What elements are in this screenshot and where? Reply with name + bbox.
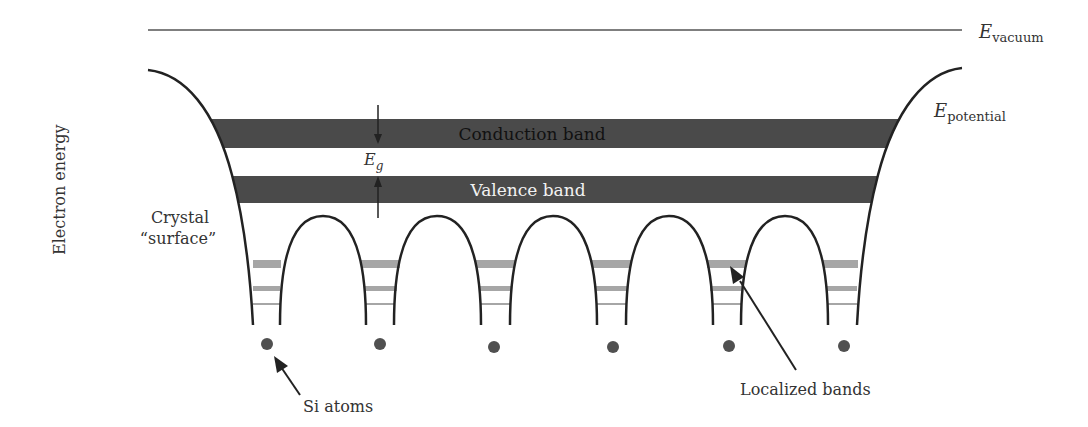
arch-2: [394, 216, 481, 325]
si-atom: [488, 341, 500, 353]
si-atoms-label: Si atoms: [303, 397, 373, 416]
arch-3: [510, 216, 597, 325]
band-diagram: Conduction band Valence band Eg Evacuum …: [0, 0, 1088, 427]
conduction-band-label: Conduction band: [458, 124, 605, 144]
si-atom: [607, 341, 619, 353]
electron-energy-axis-label: Electron energy: [50, 125, 69, 256]
si-atom: [838, 340, 850, 352]
localized-bands-label: Localized bands: [740, 380, 871, 399]
arch-4: [626, 216, 713, 325]
eg-label: Eg: [363, 150, 384, 173]
si-atoms-pointer-arrow: [274, 356, 300, 395]
localized-bands: [253, 260, 858, 305]
potential-arches: [280, 216, 828, 325]
si-atom: [374, 338, 386, 350]
si-atoms: [261, 338, 850, 353]
valence-band-label: Valence band: [469, 180, 585, 200]
crystal-surface-label-line1: Crystal: [151, 208, 209, 227]
arch-1: [280, 216, 366, 325]
arch-5: [741, 216, 828, 325]
si-atom: [723, 340, 735, 352]
right-outer-mask: [857, 0, 1088, 325]
crystal-surface-label-line2: “surface”: [140, 229, 216, 248]
si-atom: [261, 338, 273, 350]
left-outer-mask: [0, 0, 253, 325]
